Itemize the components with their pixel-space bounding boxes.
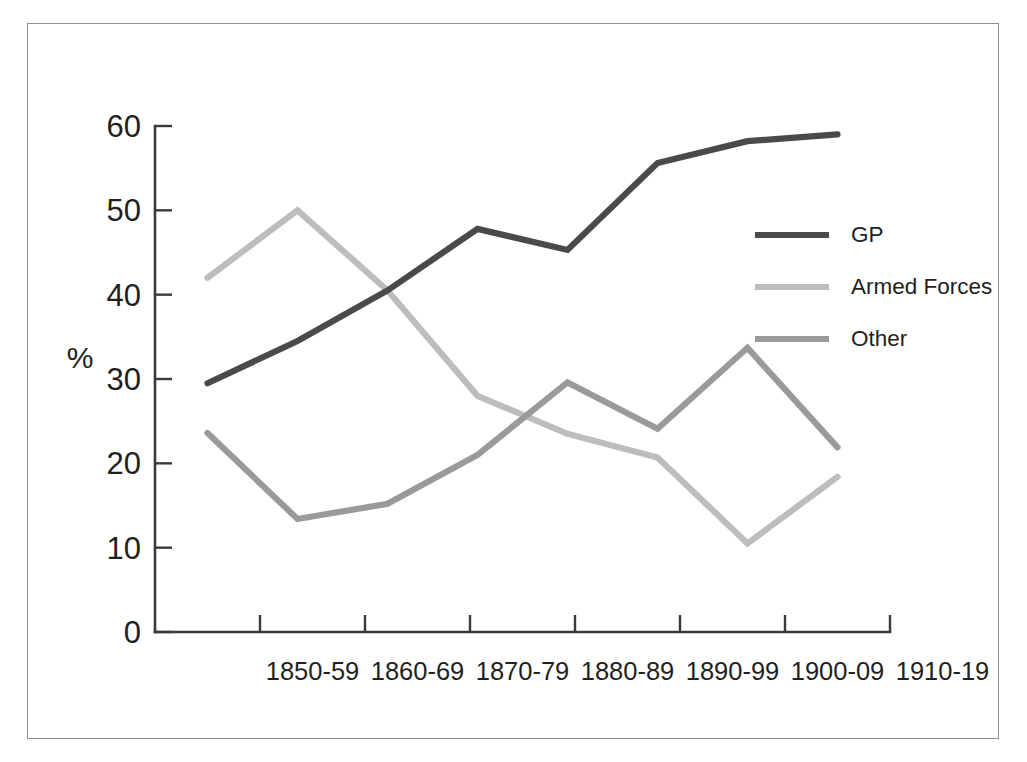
x-axis: 1850-591860-691870-791880-891890-991900-… (155, 615, 989, 685)
x-tick-label: 1860-69 (371, 657, 465, 685)
y-tick-group (155, 126, 172, 632)
series-line-other (208, 348, 838, 519)
y-tick-label: 30 (107, 362, 141, 397)
y-tick-label: 60 (107, 109, 141, 144)
y-tick-label: 20 (107, 446, 141, 481)
x-tick-label: 1870-79 (476, 657, 570, 685)
series-line-gp (208, 134, 838, 383)
y-tick-label: 40 (107, 278, 141, 313)
y-axis-title: % (67, 341, 94, 374)
figure-root: 0102030405060 % 1850-591860-691870-79188… (0, 0, 1027, 762)
chart-legend: GPArmed ForcesOther (755, 222, 992, 351)
figure-caption (27, 745, 987, 762)
legend-label: Other (851, 326, 908, 351)
line-chart: 0102030405060 % 1850-591860-691870-79188… (27, 23, 999, 739)
chart-canvas: 0102030405060 % 1850-591860-691870-79188… (27, 23, 999, 739)
legend-label: Armed Forces (851, 274, 992, 299)
y-tick-label: 10 (107, 531, 141, 566)
x-tick-label: 1880-89 (581, 657, 675, 685)
x-tick-group (260, 615, 890, 632)
y-axis: 0102030405060 % (67, 109, 172, 650)
series-group (208, 134, 838, 543)
x-tick-label: 1850-59 (266, 657, 360, 685)
legend-label: GP (851, 222, 884, 247)
y-tick-label: 0 (124, 615, 141, 650)
x-tick-label: 1900-09 (791, 657, 885, 685)
x-tick-label: 1890-99 (686, 657, 780, 685)
series-line-armed-forces (208, 210, 838, 543)
x-tick-label: 1910-19 (896, 657, 990, 685)
y-tick-label: 50 (107, 193, 141, 228)
y-tick-label-group: 0102030405060 (107, 109, 141, 650)
x-tick-label-group: 1850-591860-691870-791880-891890-991900-… (266, 657, 990, 685)
